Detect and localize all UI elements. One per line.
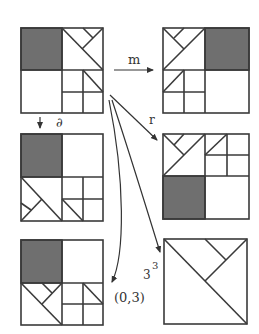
panel-m-image	[163, 28, 249, 113]
label-r: r	[149, 113, 155, 127]
panel-33-image	[164, 239, 247, 324]
label-33-base: 3	[143, 268, 151, 282]
diagram-canvas: m ∂ r (0,3) 3 3	[0, 0, 259, 334]
panel-r-image	[163, 134, 249, 219]
panel-03-image	[21, 240, 103, 325]
label-33-sup: 3	[152, 260, 158, 271]
label-03: (0,3)	[114, 290, 145, 305]
label-d: ∂	[56, 115, 63, 130]
panel-source	[21, 28, 103, 113]
arrow-03	[109, 100, 121, 282]
panel-d-image	[21, 134, 103, 221]
label-m: m	[128, 52, 140, 67]
